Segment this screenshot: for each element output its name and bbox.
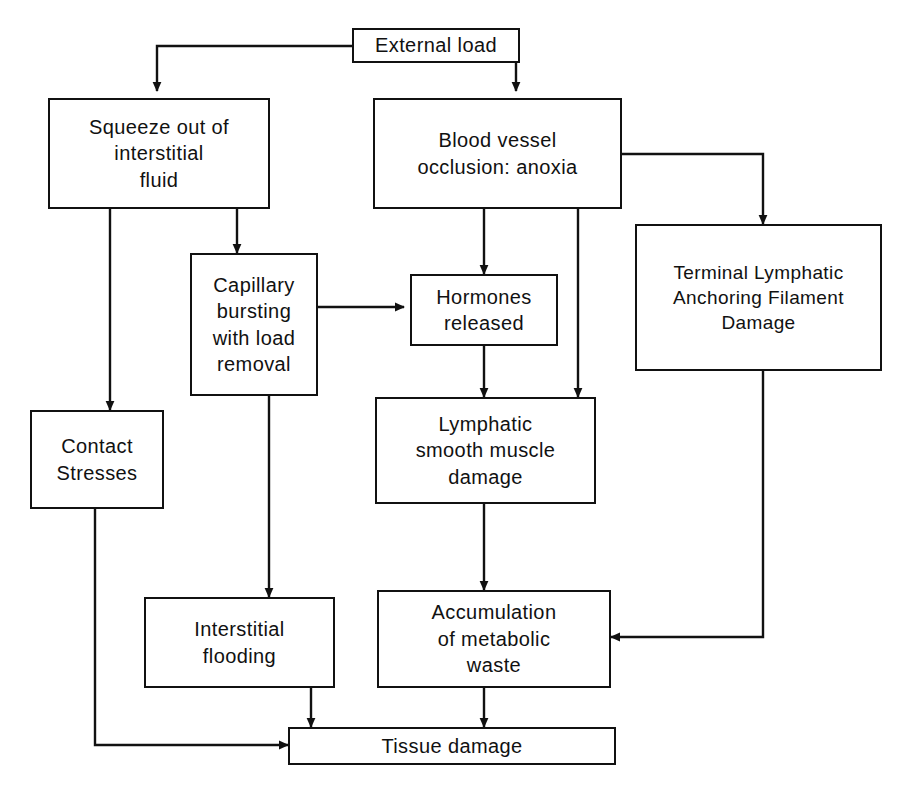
node-tissue-damage[interactable]: Tissue damage <box>288 727 616 765</box>
edge-blood-occlusion-to-terminal-lymphatic <box>622 154 763 224</box>
node-accumulation-of-metabolic-waste-label: Accumulation of metabolic waste <box>432 599 557 678</box>
node-capillary-bursting-label: Capillary bursting with load removal <box>213 272 296 378</box>
node-lymphatic-smooth-muscle-damage-label: Lymphatic smooth muscle damage <box>416 411 556 490</box>
node-capillary-bursting[interactable]: Capillary bursting with load removal <box>190 253 318 396</box>
node-interstitial-flooding-label: Interstitial flooding <box>194 616 284 669</box>
node-terminal-lymphatic-anchoring-filament-damage-label: Terminal Lymphatic Anchoring Filament Da… <box>673 260 844 335</box>
node-external-load[interactable]: External load <box>352 28 520 63</box>
node-squeeze-out-of-interstitial-fluid-label: Squeeze out of interstitial fluid <box>89 114 229 193</box>
node-blood-vessel-occlusion-label: Blood vessel occlusion: anoxia <box>417 127 577 180</box>
node-lymphatic-smooth-muscle-damage[interactable]: Lymphatic smooth muscle damage <box>375 397 596 504</box>
node-hormones-released-label: Hormones released <box>436 284 531 337</box>
node-interstitial-flooding[interactable]: Interstitial flooding <box>144 597 335 688</box>
node-external-load-label: External load <box>375 32 497 58</box>
node-terminal-lymphatic-anchoring-filament-damage[interactable]: Terminal Lymphatic Anchoring Filament Da… <box>635 224 882 371</box>
node-blood-vessel-occlusion[interactable]: Blood vessel occlusion: anoxia <box>373 98 622 209</box>
node-squeeze-out-of-interstitial-fluid[interactable]: Squeeze out of interstitial fluid <box>48 98 270 209</box>
node-tissue-damage-label: Tissue damage <box>381 733 522 759</box>
node-accumulation-of-metabolic-waste[interactable]: Accumulation of metabolic waste <box>377 590 611 688</box>
node-contact-stresses-label: Contact Stresses <box>56 433 137 486</box>
node-contact-stresses[interactable]: Contact Stresses <box>30 410 164 509</box>
edge-terminal-lymphatic-to-metabolic-waste <box>611 371 763 637</box>
node-hormones-released[interactable]: Hormones released <box>410 274 558 346</box>
edge-external-load-to-squeeze <box>157 46 352 91</box>
flowchart-canvas: External load Squeeze out of interstitia… <box>0 0 898 793</box>
